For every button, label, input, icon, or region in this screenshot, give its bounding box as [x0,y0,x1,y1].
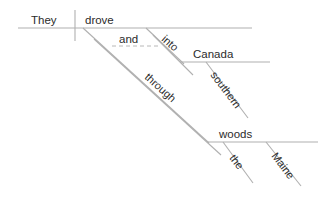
word-modifier-maine: Maine [269,150,297,181]
word-preposition-into: into [160,33,181,54]
word-modifier-the: the [227,152,246,171]
through-preposition-diagonal [83,28,209,143]
word-verb-drove: drove [85,14,114,26]
sentence-diagram: They drove and into Canada southern thro… [0,0,318,202]
word-conjunction-and: and [119,33,138,45]
word-object-canada: Canada [193,48,234,60]
word-object-woods: woods [218,128,252,140]
word-subject-they: They [31,14,57,26]
word-modifier-southern: southern [208,69,243,110]
diagram-canvas: They drove and into Canada southern thro… [0,0,318,202]
